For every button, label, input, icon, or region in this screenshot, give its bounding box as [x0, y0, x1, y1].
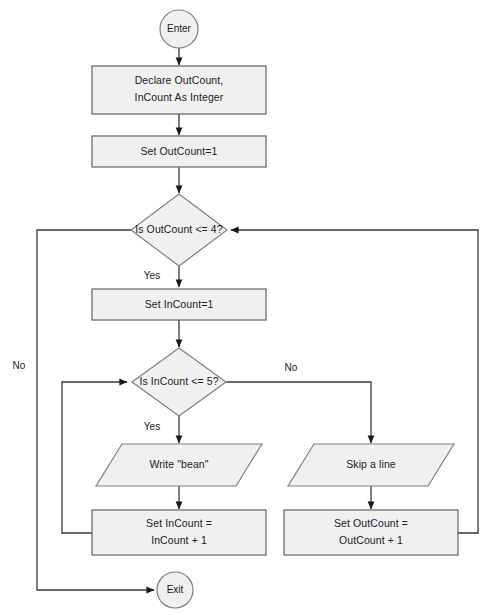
flowchart-canvas: Enter Declare OutCount, InCount As Integ… — [0, 0, 490, 615]
branch-label-outer-yes: Yes — [144, 270, 160, 281]
node-exit-label: Exit — [167, 584, 184, 595]
node-skip-line-label: Skip a line — [346, 458, 396, 470]
node-declare-label-line2: InCount As Integer — [135, 91, 224, 103]
node-inc-incount-label-line2: InCount + 1 — [151, 534, 207, 546]
node-inc-incount-label-line1: Set InCount = — [146, 517, 212, 529]
node-inner-test-label: Is InCount <= 5? — [139, 375, 218, 387]
flowchart-svg: Enter Declare OutCount, InCount As Integ… — [0, 0, 490, 615]
node-set-incount-label: Set InCount=1 — [145, 298, 214, 310]
branch-label-inner-yes: Yes — [144, 421, 160, 432]
connector-innertest-no-to-skipline — [226, 382, 371, 443]
node-inc-outcount-label-line2: OutCount + 1 — [339, 534, 403, 546]
branch-label-inner-no: No — [285, 362, 298, 373]
branch-label-outer-no: No — [13, 360, 26, 371]
node-write-bean-label: Write "bean" — [149, 458, 208, 470]
node-declare-label-line1: Declare OutCount, — [135, 74, 224, 86]
node-set-outcount-label: Set OutCount=1 — [141, 145, 218, 157]
node-enter-label: Enter — [167, 23, 192, 34]
node-outer-test-label: Is OutCount <= 4? — [135, 223, 223, 235]
node-inc-outcount-label-line1: Set OutCount = — [334, 517, 408, 529]
